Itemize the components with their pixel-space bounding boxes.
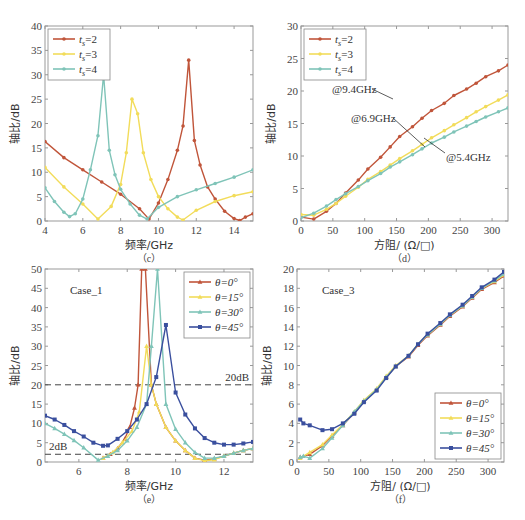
- circle-marker-icon: [357, 178, 361, 182]
- circle-marker-icon: [484, 75, 488, 79]
- circle-marker-icon: [194, 188, 198, 192]
- square-marker-icon: [193, 426, 197, 430]
- x-axis-label: 频率/GHz: [125, 479, 174, 493]
- circle-marker-icon: [232, 194, 236, 198]
- y-tick-label: 0: [289, 456, 295, 468]
- square-marker-icon: [135, 418, 139, 422]
- square-marker-icon: [461, 303, 465, 307]
- x-tick-label: 8: [124, 465, 130, 477]
- circle-marker-icon: [43, 140, 47, 144]
- square-marker-icon: [416, 342, 420, 346]
- circle-marker-icon: [53, 200, 57, 204]
- circle-marker-icon: [100, 180, 104, 184]
- legend-label: θ=0°: [466, 397, 489, 409]
- circle-marker-icon: [187, 58, 191, 62]
- square-marker-icon: [154, 375, 158, 379]
- circle-marker-icon: [497, 110, 501, 114]
- circle-marker-icon: [325, 204, 329, 208]
- square-marker-icon: [241, 441, 245, 445]
- y-tick-label: 20: [287, 85, 299, 97]
- square-marker-icon: [448, 312, 452, 316]
- annotation-label: @5.4GHz: [446, 151, 491, 163]
- x-tick-label: 6: [76, 465, 82, 477]
- y-tick-label: 30: [31, 69, 43, 81]
- circle-marker-icon: [176, 149, 180, 153]
- circle-marker-icon: [68, 215, 72, 219]
- x-tick-label: 0: [294, 465, 300, 477]
- circle-marker-icon: [128, 202, 132, 206]
- chart-panel-c: 4681012140510152025303540频率/GHz轴比/dB（c）t…: [8, 20, 255, 264]
- circle-marker-icon: [344, 192, 348, 196]
- square-marker-icon: [362, 400, 366, 404]
- square-marker-icon: [426, 332, 430, 336]
- square-marker-icon: [91, 441, 95, 445]
- legend-label: θ=15°: [215, 291, 244, 303]
- y-tick-label: 20: [283, 263, 295, 275]
- circle-marker-icon: [411, 149, 415, 153]
- square-marker-icon: [341, 421, 345, 425]
- square-marker-icon: [106, 443, 110, 447]
- square-marker-icon: [406, 354, 410, 358]
- legend-label: θ=30°: [466, 427, 495, 439]
- circle-marker-icon: [166, 178, 170, 182]
- circle-marker-icon: [452, 94, 456, 98]
- circle-marker-icon: [193, 139, 197, 143]
- circle-marker-icon: [398, 135, 402, 139]
- square-marker-icon: [183, 413, 187, 417]
- circle-marker-icon: [465, 124, 469, 128]
- circle-marker-icon: [379, 172, 383, 176]
- circle-marker-icon: [107, 149, 111, 153]
- y-tick-label: 0: [293, 215, 299, 227]
- legend: θ=0°θ=15°θ=30°θ=45°: [435, 393, 501, 459]
- x-tick-label: 14: [229, 224, 241, 236]
- square-marker-icon: [198, 325, 202, 329]
- y-axis-label: 轴比/dB: [8, 103, 22, 143]
- circle-marker-icon: [176, 215, 180, 219]
- x-tick-label: 12: [191, 224, 202, 236]
- circle-marker-icon: [138, 207, 142, 211]
- x-tick-label: 200: [416, 465, 433, 477]
- square-marker-icon: [320, 428, 324, 432]
- reference-line-label: 20dB: [225, 371, 249, 383]
- y-tick-label: 30: [31, 340, 43, 352]
- square-marker-icon: [470, 294, 474, 298]
- circle-marker-icon: [96, 134, 100, 138]
- circle-marker-icon: [318, 67, 322, 71]
- y-tick-label: 14: [283, 321, 295, 333]
- square-marker-icon: [82, 435, 86, 439]
- circle-marker-icon: [452, 123, 456, 127]
- y-tick-label: 40: [31, 20, 43, 32]
- circle-marker-icon: [125, 151, 129, 155]
- figure-canvas: 4681012140510152025303540频率/GHz轴比/dB（c）t…: [0, 0, 525, 520]
- circle-marker-icon: [136, 112, 140, 116]
- x-tick-label: 300: [480, 465, 497, 477]
- x-tick-label: 10: [170, 465, 182, 477]
- circle-marker-icon: [232, 217, 236, 221]
- circle-marker-icon: [484, 115, 488, 119]
- square-marker-icon: [330, 427, 334, 431]
- x-tick-label: 100: [352, 465, 369, 477]
- y-tick-label: 35: [31, 321, 43, 333]
- circle-marker-icon: [452, 130, 456, 134]
- circle-marker-icon: [325, 208, 329, 212]
- x-tick-label: 8: [118, 224, 124, 236]
- circle-marker-icon: [89, 168, 93, 172]
- circle-marker-icon: [420, 117, 424, 121]
- x-tick-label: 6: [80, 224, 86, 236]
- square-marker-icon: [164, 323, 168, 327]
- circle-marker-icon: [223, 209, 227, 213]
- panel-title: Case_3: [322, 284, 355, 296]
- square-marker-icon: [502, 270, 506, 274]
- panel-caption: （c）: [137, 253, 161, 264]
- y-tick-label: 30: [287, 20, 299, 32]
- y-tick-label: 25: [287, 53, 299, 65]
- circle-marker-icon: [506, 93, 510, 97]
- circle-marker-icon: [474, 110, 478, 114]
- panel-caption: （e）: [137, 494, 161, 505]
- y-axis-label: 轴比/dB: [264, 103, 278, 143]
- x-tick-label: 150: [384, 465, 401, 477]
- circle-marker-icon: [142, 151, 146, 155]
- legend-label: θ=15°: [466, 412, 495, 424]
- reference-line-label: 2dB: [49, 440, 67, 452]
- legend-label: θ=45°: [466, 442, 495, 454]
